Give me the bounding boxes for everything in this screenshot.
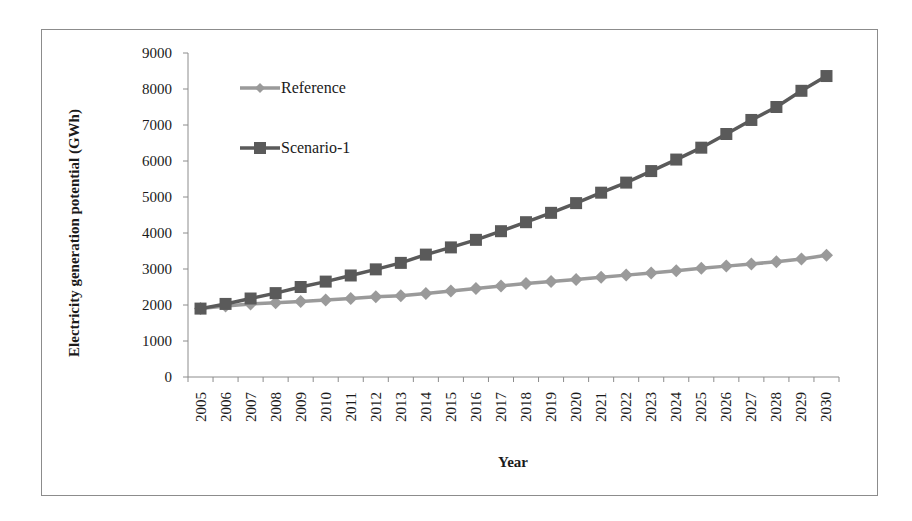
data-point-square — [670, 154, 682, 166]
data-point-square — [270, 287, 282, 299]
y-tick-label: 4000 — [142, 225, 172, 241]
series-reference — [194, 249, 833, 315]
x-tick-label: 2010 — [318, 392, 334, 422]
data-point-diamond — [494, 279, 507, 292]
legend-diamond-marker-icon — [255, 83, 265, 93]
data-point-square — [195, 303, 207, 315]
x-tick-label: 2005 — [193, 392, 209, 422]
svg-text:Electricity generation potenti: Electricity generation potential (GWh) — [66, 109, 83, 357]
y-tick-label: 0 — [165, 369, 173, 385]
legend-item: Reference — [240, 79, 346, 96]
data-point-square — [820, 70, 832, 82]
x-axis-title: Year — [498, 454, 528, 470]
x-tick-label: 2009 — [293, 392, 309, 422]
data-point-diamond — [720, 260, 733, 273]
data-point-diamond — [319, 293, 332, 306]
data-point-square — [220, 298, 232, 310]
data-point-square — [420, 249, 432, 261]
series-layer — [194, 70, 833, 315]
data-point-diamond — [795, 252, 808, 265]
data-point-square — [345, 269, 357, 281]
data-point-square — [645, 165, 657, 177]
data-point-diamond — [770, 255, 783, 268]
x-tick-label: 2030 — [818, 392, 834, 422]
data-point-diamond — [469, 282, 482, 295]
data-point-diamond — [394, 289, 407, 302]
y-tick-label: 1000 — [142, 333, 172, 349]
data-point-square — [570, 197, 582, 209]
y-axis: 0100020003000400050006000700080009000 — [142, 45, 188, 385]
x-tick-label: 2024 — [668, 392, 684, 423]
y-tick-label: 9000 — [142, 45, 172, 61]
x-tick-label: 2007 — [243, 392, 259, 423]
data-point-square — [470, 234, 482, 246]
line-chart: Electricity generation potential (GWh) Y… — [0, 0, 912, 521]
x-axis: 2005200620072008200920102011201220132014… — [188, 377, 839, 422]
data-point-square — [395, 257, 407, 269]
y-tick-label: 2000 — [142, 297, 172, 313]
data-point-square — [320, 276, 332, 288]
data-point-square — [720, 128, 732, 140]
data-point-diamond — [419, 287, 432, 300]
data-point-diamond — [369, 290, 382, 303]
x-tick-label: 2026 — [718, 392, 734, 423]
x-tick-label: 2029 — [793, 392, 809, 422]
legend-label: Reference — [281, 79, 346, 96]
x-tick-label: 2006 — [218, 392, 234, 423]
data-point-diamond — [745, 257, 758, 270]
data-point-square — [770, 101, 782, 113]
y-tick-label: 3000 — [142, 261, 172, 277]
x-tick-label: 2025 — [693, 392, 709, 422]
data-point-diamond — [695, 262, 708, 275]
x-tick-label: 2008 — [268, 392, 284, 422]
y-axis-title: Electricity generation potential (GWh) — [66, 109, 83, 357]
x-tick-label: 2016 — [468, 392, 484, 423]
x-tick-label: 2013 — [393, 392, 409, 422]
data-point-square — [445, 241, 457, 253]
data-point-diamond — [620, 269, 633, 282]
x-tick-label: 2015 — [443, 392, 459, 422]
x-tick-label: 2012 — [368, 392, 384, 422]
data-point-diamond — [670, 264, 683, 277]
data-point-diamond — [344, 292, 357, 305]
data-point-diamond — [545, 275, 558, 288]
legend: ReferenceScenario-1 — [240, 79, 350, 156]
data-point-square — [370, 263, 382, 275]
data-point-square — [545, 207, 557, 219]
data-point-square — [295, 281, 307, 293]
series-scenario-1 — [195, 70, 833, 315]
data-point-square — [620, 177, 632, 189]
data-point-square — [495, 225, 507, 237]
legend-label: Scenario-1 — [281, 139, 350, 156]
x-tick-label: 2023 — [643, 392, 659, 422]
data-point-square — [595, 187, 607, 199]
data-point-diamond — [820, 249, 833, 262]
data-point-diamond — [520, 277, 533, 290]
x-tick-label: 2018 — [518, 392, 534, 422]
data-point-diamond — [444, 284, 457, 297]
x-tick-label: 2014 — [418, 392, 434, 423]
data-point-square — [520, 216, 532, 228]
legend-square-marker-icon — [254, 142, 266, 154]
data-point-diamond — [294, 295, 307, 308]
data-point-square — [695, 142, 707, 154]
x-tick-label: 2021 — [593, 392, 609, 422]
x-tick-label: 2022 — [618, 392, 634, 422]
x-tick-label: 2027 — [743, 392, 759, 423]
data-point-square — [795, 85, 807, 97]
data-point-diamond — [645, 266, 658, 279]
data-point-diamond — [570, 273, 583, 286]
x-tick-label: 2020 — [568, 392, 584, 422]
x-tick-label: 2019 — [543, 392, 559, 422]
y-tick-label: 5000 — [142, 189, 172, 205]
x-tick-label: 2017 — [493, 392, 509, 423]
y-tick-label: 8000 — [142, 81, 172, 97]
x-tick-label: 2011 — [343, 392, 359, 421]
y-tick-label: 6000 — [142, 153, 172, 169]
data-point-square — [745, 114, 757, 126]
data-point-square — [245, 293, 257, 305]
data-point-diamond — [595, 271, 608, 284]
y-tick-label: 7000 — [142, 117, 172, 133]
x-tick-label: 2028 — [768, 392, 784, 422]
legend-item: Scenario-1 — [240, 139, 350, 156]
